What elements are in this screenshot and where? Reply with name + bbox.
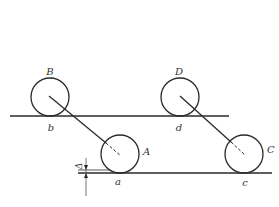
circle-D [161,78,199,116]
connector-D-C-dashed [231,142,245,155]
circle-A [101,135,139,173]
connector-B-A-dashed [106,143,121,156]
label-C: C [267,144,275,155]
delta-arrow-down [84,165,88,170]
label-d: d [176,122,182,133]
label-A: A [142,146,150,157]
label-a: a [115,176,121,187]
diagram-canvas: Δ B b A a D d C c [0,0,279,207]
delta-arrow-up [84,173,88,178]
connector-D-C [180,96,231,142]
connector-B-A [49,96,106,143]
label-c: c [242,177,248,188]
label-B: B [45,66,53,77]
label-b: b [48,122,54,133]
label-D: D [174,66,183,77]
delta-label: Δ [74,163,84,171]
